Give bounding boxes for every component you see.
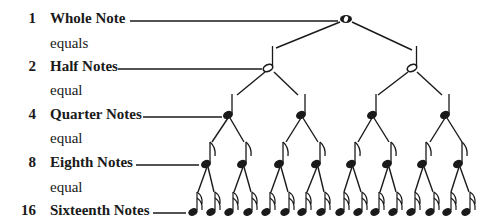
- sixteenth-note-icon-9: [335, 192, 349, 217]
- eighth-note-icon-7: [417, 142, 432, 169]
- whole-note-icon: [340, 15, 352, 23]
- eighth-note-icon-1: [201, 142, 216, 169]
- eighth-note-icon-5: [346, 142, 361, 169]
- sixteenth-note-icon-11: [370, 192, 384, 217]
- half-note-icon-1: [262, 46, 274, 73]
- sixteenth-note-icon-1: [188, 192, 202, 217]
- sixteenth-note-icon-13: [406, 192, 420, 217]
- quarter-note-icon-1: [223, 94, 234, 120]
- quarter-note-icon-4: [440, 94, 451, 120]
- quarter-note-icon-2: [296, 94, 307, 120]
- sixteenth-note-icon-5: [261, 192, 275, 217]
- sixteenth-note-icon-4: [243, 192, 257, 217]
- sixteenth-note-icon-14: [425, 192, 439, 217]
- eighth-note-icon-2: [237, 142, 252, 169]
- sixteenth-note-icon-15: [442, 192, 456, 217]
- eighth-note-icon-6: [382, 142, 397, 169]
- half-note-icon-2: [406, 46, 418, 73]
- sixteenth-note-icon-8: [316, 192, 330, 217]
- sixteenth-note-icon-7: [297, 192, 311, 217]
- eighth-note-icon-3: [274, 142, 289, 169]
- sixteenth-note-icon-6: [280, 192, 294, 217]
- quarter-note-icon-3: [367, 94, 378, 120]
- sixteenth-note-icon-3: [224, 192, 238, 217]
- sixteenth-note-icon-12: [388, 192, 402, 217]
- sixteenth-note-icon-10: [353, 192, 367, 217]
- eighth-note-icon-8: [453, 142, 468, 169]
- sixteenth-note-icon-2: [206, 192, 220, 217]
- eighth-note-icon-4: [311, 142, 326, 169]
- sixteenth-note-icon-16: [461, 192, 475, 217]
- note-tree-diagram: [0, 0, 498, 224]
